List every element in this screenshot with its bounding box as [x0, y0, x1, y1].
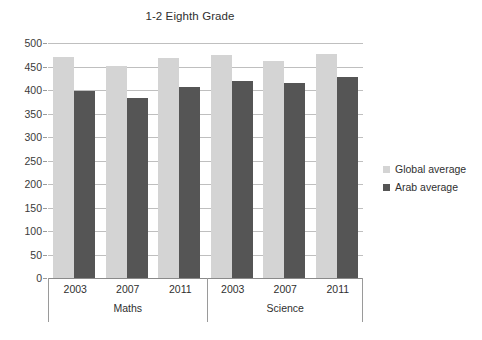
ytick-mark-150	[43, 208, 47, 209]
ytick-mark-100	[43, 231, 47, 232]
legend-label-arab-average: Arab average	[395, 181, 458, 193]
ytick-mark-450	[43, 67, 47, 68]
ytick-label-0: 0	[36, 272, 42, 284]
bar-global-average-2011-science	[316, 54, 337, 278]
bar-group-2003-maths	[53, 43, 95, 278]
category-axis: 200320072011200320072011MathsScience	[48, 278, 363, 322]
ytick-mark-500	[43, 43, 47, 44]
chart-title: 1-2 Eighth Grade	[0, 10, 380, 22]
ytick-mark-250	[43, 161, 47, 162]
plot-area: 500450400350300250200150100500	[48, 43, 363, 278]
bar-chart: 1-2 Eighth Grade 50045040035030025020015…	[0, 0, 482, 340]
legend-swatch-icon-arab-average	[383, 184, 390, 191]
bar-arab-average-2003-maths	[74, 91, 95, 278]
bar-group-2011-maths	[158, 43, 200, 278]
group-divider	[207, 278, 208, 322]
legend-label-global-average: Global average	[395, 163, 466, 175]
ytick-label-500: 500	[24, 37, 42, 49]
ytick-mark-350	[43, 114, 47, 115]
bar-arab-average-2007-maths	[127, 98, 148, 278]
bar-group-2007-maths	[106, 43, 148, 278]
ytick-label-200: 200	[24, 178, 42, 190]
legend-swatch-icon-global-average	[383, 166, 390, 173]
ytick-mark-50	[43, 255, 47, 256]
ytick-label-300: 300	[24, 131, 42, 143]
year-label-2011-maths: 2011	[154, 283, 207, 295]
ytick-label-400: 400	[24, 84, 42, 96]
bar-arab-average-2011-maths	[179, 87, 200, 278]
bar-global-average-2003-science	[211, 55, 232, 278]
bar-global-average-2007-science	[263, 61, 284, 278]
bar-arab-average-2003-science	[232, 81, 253, 278]
legend-item-arab-average: Arab average	[383, 178, 479, 196]
bar-global-average-2007-maths	[106, 66, 127, 278]
ytick-label-150: 150	[24, 202, 42, 214]
bar-arab-average-2011-science	[337, 77, 358, 278]
group-label-science: Science	[207, 302, 365, 314]
year-label-2007-science: 2007	[259, 283, 312, 295]
bar-arab-average-2007-science	[284, 83, 305, 278]
ytick-label-350: 350	[24, 108, 42, 120]
ytick-mark-400	[43, 90, 47, 91]
legend-item-global-average: Global average	[383, 160, 479, 178]
bar-group-2003-science	[211, 43, 253, 278]
ytick-label-450: 450	[24, 61, 42, 73]
ytick-label-100: 100	[24, 225, 42, 237]
year-label-2003-maths: 2003	[49, 283, 102, 295]
bar-global-average-2003-maths	[53, 57, 74, 278]
ytick-mark-200	[43, 184, 47, 185]
ytick-mark-0	[43, 278, 47, 279]
ytick-mark-300	[43, 137, 47, 138]
ytick-label-50: 50	[30, 249, 42, 261]
chart-legend: Global average Arab average	[383, 160, 479, 196]
ytick-label-250: 250	[24, 155, 42, 167]
year-label-2007-maths: 2007	[102, 283, 155, 295]
bar-group-2007-science	[263, 43, 305, 278]
year-label-2011-science: 2011	[312, 283, 365, 295]
group-label-maths: Maths	[49, 302, 207, 314]
bar-global-average-2011-maths	[158, 58, 179, 278]
bar-group-2011-science	[316, 43, 358, 278]
year-label-2003-science: 2003	[207, 283, 260, 295]
